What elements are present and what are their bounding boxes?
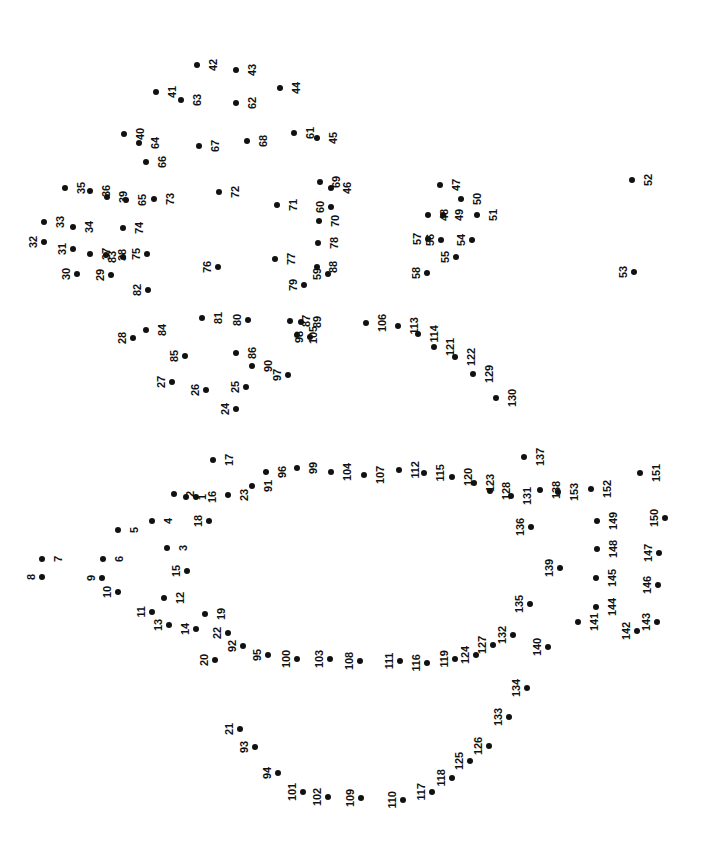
puzzle-dot [193, 494, 199, 500]
dot-label: 17 [224, 454, 235, 466]
puzzle-dot [314, 264, 320, 270]
puzzle-dot [656, 550, 662, 556]
dot-label: 74 [134, 222, 145, 234]
puzzle-dot [317, 179, 323, 185]
dot-label: 91 [263, 480, 274, 492]
dot-label: 49 [454, 209, 465, 221]
dot-label: 140 [532, 638, 543, 656]
puzzle-dot [285, 372, 291, 378]
puzzle-dot [171, 491, 177, 497]
puzzle-dot [169, 379, 175, 385]
puzzle-dot [274, 202, 280, 208]
puzzle-dot [325, 794, 331, 800]
dot-label: 85 [169, 350, 180, 362]
dot-label: 108 [344, 652, 355, 670]
puzzle-dot [467, 758, 473, 764]
puzzle-dot [425, 236, 431, 242]
puzzle-dot [328, 469, 334, 475]
puzzle-dot [166, 622, 172, 628]
dot-label: 88 [328, 261, 339, 273]
puzzle-dot [277, 85, 283, 91]
dot-label: 125 [454, 752, 465, 770]
puzzle-dot [506, 714, 512, 720]
dot-label: 141 [589, 613, 600, 631]
dot-label: 5 [129, 527, 140, 533]
dot-label: 35 [76, 182, 87, 194]
dot-label: 66 [157, 156, 168, 168]
puzzle-dot [225, 630, 231, 636]
puzzle-dot [637, 470, 643, 476]
dot-label: 136 [515, 518, 526, 536]
dot-label: 30 [61, 268, 72, 280]
dot-label: 79 [288, 279, 299, 291]
puzzle-dot [245, 317, 251, 323]
puzzle-dot [395, 323, 401, 329]
dot-label: 149 [608, 512, 619, 530]
puzzle-dot [196, 143, 202, 149]
puzzle-dot [233, 100, 239, 106]
puzzle-dot [327, 656, 333, 662]
puzzle-dot [555, 489, 561, 495]
dot-label: 80 [232, 314, 243, 326]
puzzle-dot [528, 524, 534, 530]
dot-label: 131 [522, 487, 533, 505]
dot-label: 4 [163, 518, 174, 524]
dot-label: 83 [107, 251, 118, 263]
puzzle-dot [233, 406, 239, 412]
puzzle-dot [593, 604, 599, 610]
dot-label: 104 [342, 463, 353, 481]
dot-label: 144 [607, 598, 618, 616]
puzzle-dot [215, 264, 221, 270]
puzzle-dot [41, 219, 47, 225]
puzzle-dot [424, 660, 430, 666]
dot-label: 132 [497, 626, 508, 644]
puzzle-dot [662, 515, 668, 521]
puzzle-dot [471, 480, 477, 486]
dot-label: 122 [466, 348, 477, 366]
dot-label: 32 [28, 236, 39, 248]
puzzle-dot [212, 657, 218, 663]
dot-label: 109 [345, 789, 356, 807]
puzzle-dot [87, 251, 93, 257]
dot-label: 99 [308, 462, 319, 474]
dot-label: 153 [569, 483, 580, 501]
dot-label: 73 [165, 193, 176, 205]
puzzle-dot [108, 272, 114, 278]
dot-label: 147 [643, 544, 654, 562]
puzzle-dot [521, 454, 527, 460]
dot-label: 142 [621, 622, 632, 640]
puzzle-dot [240, 643, 246, 649]
puzzle-dot [265, 652, 271, 658]
dot-label: 152 [602, 480, 613, 498]
dot-label: 94 [262, 767, 273, 779]
puzzle-dot [244, 138, 250, 144]
dot-label: 86 [247, 347, 258, 359]
puzzle-dot [120, 225, 126, 231]
puzzle-dot [316, 218, 322, 224]
puzzle-dot [437, 182, 443, 188]
dot-label: 137 [535, 448, 546, 466]
dot-label: 116 [411, 654, 422, 671]
dot-label: 33 [55, 216, 66, 228]
puzzle-dot [263, 469, 269, 475]
dot-label: 64 [150, 137, 161, 149]
dot-label: 67 [210, 140, 221, 152]
dot-label: 40 [135, 128, 146, 140]
puzzle-dot [449, 474, 455, 480]
puzzle-dot [233, 67, 239, 73]
puzzle-dot [361, 472, 367, 478]
dot-label: 46 [342, 182, 353, 194]
puzzle-dot [161, 595, 167, 601]
dot-label: 63 [192, 94, 203, 106]
puzzle-dot [203, 387, 209, 393]
puzzle-dot [287, 318, 293, 324]
dot-label: 26 [190, 384, 201, 396]
puzzle-dot [39, 556, 45, 562]
puzzle-dot [216, 189, 222, 195]
dot-label: 45 [328, 132, 339, 144]
puzzle-dot [294, 656, 300, 662]
puzzle-dot [469, 237, 475, 243]
dot-label: 78 [329, 237, 340, 249]
dot-label: 53 [618, 266, 629, 278]
puzzle-dot [120, 254, 126, 260]
